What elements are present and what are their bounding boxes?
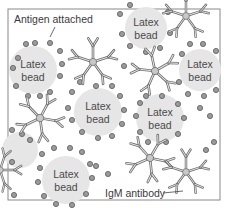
antigen-dot bbox=[213, 87, 218, 92]
antigen-dot bbox=[109, 133, 114, 138]
igm-center bbox=[183, 13, 190, 20]
antigen-dot bbox=[47, 89, 52, 94]
antigen-dot bbox=[127, 43, 132, 48]
bead-label-line1: Latex bbox=[53, 168, 79, 180]
antigen-dot bbox=[53, 201, 58, 206]
bead-label-line2: bead bbox=[86, 113, 110, 125]
antigen-dot bbox=[137, 129, 142, 134]
antigen-dot bbox=[137, 100, 142, 105]
antigen-dot bbox=[203, 147, 208, 152]
antigen-dot bbox=[175, 101, 180, 106]
antigen-dot bbox=[93, 83, 98, 88]
antigen-dot bbox=[9, 159, 14, 164]
antigen-dot bbox=[13, 83, 18, 88]
antigen-dot bbox=[65, 105, 70, 110]
antigen-dot bbox=[79, 129, 84, 134]
antigen-dot bbox=[201, 93, 206, 98]
diagram: LatexbeadLatexbeadLatexbeadLatexbeadLate… bbox=[0, 0, 226, 211]
antigen-dot bbox=[145, 139, 150, 144]
antigen-dot bbox=[117, 11, 122, 16]
antigen-dot bbox=[37, 93, 42, 98]
antigen-dot bbox=[39, 151, 44, 156]
igm-center bbox=[89, 58, 96, 65]
antigen-dot bbox=[51, 145, 56, 150]
antigen-dot bbox=[59, 61, 64, 66]
antigen-dot bbox=[179, 51, 184, 56]
antigen-dot bbox=[133, 113, 138, 118]
antigen-attached-label: Antigen attached bbox=[14, 13, 93, 25]
antigen-dot bbox=[57, 73, 62, 78]
bead-label-line2: bead bbox=[188, 71, 212, 83]
antigen-dot bbox=[79, 149, 84, 154]
antigen-dot bbox=[117, 93, 122, 98]
antigen-dot bbox=[69, 202, 74, 207]
antigen-dot bbox=[41, 193, 46, 198]
bead-label-line2: bead bbox=[134, 29, 158, 41]
bead-label-line1: Latex bbox=[20, 58, 46, 70]
antigen-dot bbox=[175, 131, 180, 136]
antigen-dot bbox=[95, 135, 100, 140]
latex-bead bbox=[125, 7, 167, 49]
antigen-dot bbox=[185, 91, 190, 96]
bead-label-line1: Latex bbox=[147, 106, 173, 118]
antigen-dot bbox=[83, 191, 88, 196]
antigen-dot bbox=[27, 137, 32, 142]
antigen-dot bbox=[10, 65, 15, 70]
antigen-dot bbox=[11, 192, 16, 197]
antigen-dot bbox=[9, 127, 14, 132]
antigen-dot bbox=[181, 115, 186, 120]
antigen-dot bbox=[213, 48, 218, 53]
antigen-dot bbox=[23, 41, 28, 46]
bead-label-line2: bead bbox=[21, 71, 45, 83]
antigen-dot bbox=[35, 179, 40, 184]
antigen-dot bbox=[200, 41, 205, 46]
bead-label-line2: bead bbox=[54, 181, 78, 193]
antigen-dot bbox=[157, 45, 162, 50]
antigen-dot bbox=[69, 89, 74, 94]
antigen-dot bbox=[105, 171, 110, 176]
antigen-dot bbox=[67, 145, 72, 150]
antigen-dot bbox=[187, 41, 192, 46]
latex-bead bbox=[2, 132, 38, 168]
antigen-dot bbox=[119, 31, 124, 36]
antigen-dot bbox=[207, 113, 212, 118]
bead-label-line1: Latex bbox=[85, 100, 111, 112]
latex-bead bbox=[42, 156, 90, 204]
igm-center bbox=[0, 167, 3, 173]
igm-center bbox=[183, 169, 190, 176]
antigen-dot bbox=[87, 161, 92, 166]
antigen-dot bbox=[89, 175, 94, 180]
antigen-dot bbox=[127, 2, 132, 7]
antigen-dot bbox=[37, 165, 42, 170]
igm-antibody-label: IgM antibody bbox=[105, 187, 166, 199]
antigen-dot bbox=[57, 48, 62, 53]
latex-bead bbox=[179, 49, 221, 91]
antigen-dot bbox=[121, 107, 126, 112]
antigen-dot bbox=[119, 121, 124, 126]
antigen-dot bbox=[93, 163, 98, 168]
antigen-dot bbox=[32, 40, 37, 45]
bead-label-line1: Latex bbox=[133, 16, 159, 28]
antigen-dot bbox=[121, 63, 126, 68]
antigen-dot bbox=[211, 139, 216, 144]
antigen-dot bbox=[159, 93, 164, 98]
latex-bead bbox=[74, 88, 122, 136]
antigen-dot bbox=[143, 93, 148, 98]
antigen-dot bbox=[176, 79, 181, 84]
agglutination-diagram: LatexbeadLatexbeadLatexbeadLatexbeadLate… bbox=[0, 0, 226, 211]
antigen-dot bbox=[197, 105, 202, 110]
antigen-dot bbox=[109, 83, 114, 88]
bead-label-line2: bead bbox=[148, 119, 172, 131]
antigen-dot bbox=[47, 40, 52, 45]
bead-label-line1: Latex bbox=[187, 58, 213, 70]
antigen-dot bbox=[69, 117, 74, 122]
